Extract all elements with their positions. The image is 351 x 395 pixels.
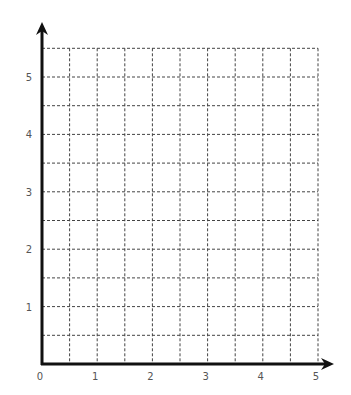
x-tick-label: 3 xyxy=(202,371,208,382)
x-tick-label: 4 xyxy=(258,371,264,382)
y-tick-labels: 12345 xyxy=(26,72,32,313)
x-tick-label: 1 xyxy=(92,371,98,382)
x-tick-label: 5 xyxy=(313,371,319,382)
x-tick-label: 0 xyxy=(37,371,43,382)
x-tick-labels: 012345 xyxy=(37,371,319,382)
y-tick-label: 4 xyxy=(26,129,32,140)
y-tick-label: 1 xyxy=(26,302,32,313)
y-tick-label: 3 xyxy=(26,187,32,198)
x-tick-label: 2 xyxy=(147,371,153,382)
grid-lines xyxy=(42,48,318,364)
axes xyxy=(36,22,334,370)
y-tick-label: 2 xyxy=(26,244,32,255)
y-tick-label: 5 xyxy=(26,72,32,83)
coordinate-grid-chart: 012345 12345 xyxy=(0,0,351,395)
